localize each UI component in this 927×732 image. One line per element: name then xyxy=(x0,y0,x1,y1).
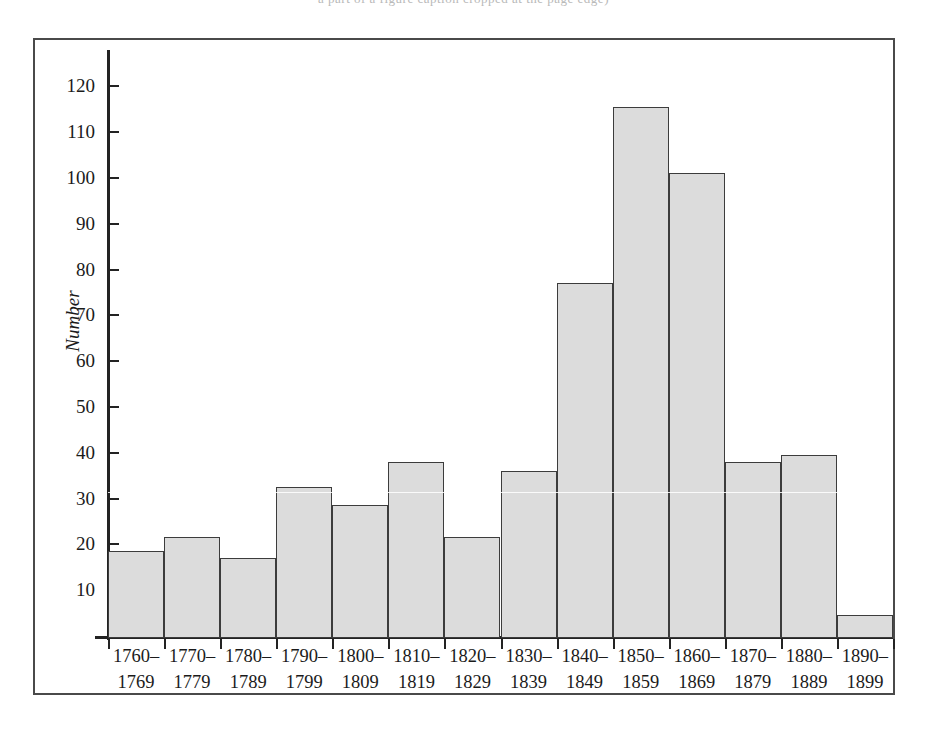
y-axis-tick-label: 70 xyxy=(51,305,95,324)
x-axis-labels: 1760–17691770–17791780–17891790–17991800… xyxy=(108,644,893,702)
x-axis-label-line: 1799 xyxy=(276,670,332,696)
x-axis-label: 1870–1879 xyxy=(725,644,781,695)
x-axis-label-line: 1890– xyxy=(837,644,893,670)
x-axis-label: 1760–1769 xyxy=(108,644,164,695)
histogram-bar xyxy=(781,455,837,638)
x-axis-label-line: 1769 xyxy=(108,670,164,696)
x-axis-label: 1770–1779 xyxy=(164,644,220,695)
x-axis-label-line: 1790– xyxy=(276,644,332,670)
x-axis-label: 1820–1829 xyxy=(444,644,500,695)
x-axis-label: 1810–1819 xyxy=(388,644,444,695)
histogram-bar xyxy=(388,462,444,638)
y-axis-tick-label: 40 xyxy=(51,443,95,462)
x-axis-label-line: 1860– xyxy=(669,644,725,670)
y-axis-tick-label: 20 xyxy=(51,534,95,553)
x-axis-label-line: 1889 xyxy=(781,670,837,696)
y-axis-tick-label: 90 xyxy=(51,214,95,233)
x-axis-label-line: 1840– xyxy=(557,644,613,670)
histogram-bar xyxy=(837,615,893,638)
histogram-plot-area: Number 102030405060708090100110120 1760–… xyxy=(35,40,893,693)
x-axis-label-line: 1849 xyxy=(557,670,613,696)
x-axis-label-line: 1829 xyxy=(444,670,500,696)
y-axis-tick-label: 100 xyxy=(51,168,95,187)
x-axis-label-line: 1880– xyxy=(781,644,837,670)
x-axis-label-line: 1800– xyxy=(332,644,388,670)
x-axis-label-line: 1869 xyxy=(669,670,725,696)
x-axis-label: 1890–1899 xyxy=(837,644,893,695)
y-axis-tick-label: 50 xyxy=(51,397,95,416)
x-axis-label: 1800–1809 xyxy=(332,644,388,695)
x-axis-label-line: 1839 xyxy=(501,670,557,696)
x-axis-label-line: 1830– xyxy=(501,644,557,670)
histogram-bar xyxy=(444,537,500,638)
x-axis-label: 1840–1849 xyxy=(557,644,613,695)
histogram-bar xyxy=(164,537,220,638)
x-axis-label-line: 1810– xyxy=(388,644,444,670)
figure-frame: Number 102030405060708090100110120 1760–… xyxy=(33,38,895,695)
histogram-bars xyxy=(108,40,893,638)
y-axis-tick-label: 120 xyxy=(51,76,95,95)
y-axis-tick-label: 60 xyxy=(51,351,95,370)
x-axis-label-line: 1859 xyxy=(613,670,669,696)
x-axis-label-line: 1780– xyxy=(220,644,276,670)
histogram-bar xyxy=(557,283,613,638)
x-axis-label-line: 1819 xyxy=(388,670,444,696)
histogram-bar xyxy=(501,471,557,638)
x-axis-label: 1780–1789 xyxy=(220,644,276,695)
x-axis-label: 1790–1799 xyxy=(276,644,332,695)
x-axis-label-line: 1870– xyxy=(725,644,781,670)
histogram-bar xyxy=(669,173,725,638)
histogram-bar xyxy=(332,505,388,638)
x-axis-label-line: 1779 xyxy=(164,670,220,696)
y-axis-tick-label: 30 xyxy=(51,489,95,508)
cropped-caption-text: a part of a figure caption cropped at th… xyxy=(0,0,927,7)
x-axis-label: 1880–1889 xyxy=(781,644,837,695)
x-axis-tick xyxy=(893,639,895,649)
x-axis-label-line: 1820– xyxy=(444,644,500,670)
histogram-bar xyxy=(220,558,276,638)
y-axis-tick-label: 80 xyxy=(51,260,95,279)
x-axis-label-line: 1770– xyxy=(164,644,220,670)
y-axis-tick-label: 110 xyxy=(51,122,95,141)
x-axis-label-line: 1879 xyxy=(725,670,781,696)
y-axis-tick-label: 10 xyxy=(51,580,95,599)
histogram-bar xyxy=(725,462,781,638)
x-axis-label-line: 1850– xyxy=(613,644,669,670)
x-axis-label: 1830–1839 xyxy=(501,644,557,695)
histogram-bar xyxy=(276,487,332,638)
x-axis-label-line: 1789 xyxy=(220,670,276,696)
x-axis-label: 1850–1859 xyxy=(613,644,669,695)
histogram-bar xyxy=(613,107,669,638)
x-axis-label-line: 1809 xyxy=(332,670,388,696)
histogram-bar xyxy=(108,551,164,638)
x-axis-label-line: 1899 xyxy=(837,670,893,696)
x-axis-label-line: 1760– xyxy=(108,644,164,670)
x-axis-label: 1860–1869 xyxy=(669,644,725,695)
